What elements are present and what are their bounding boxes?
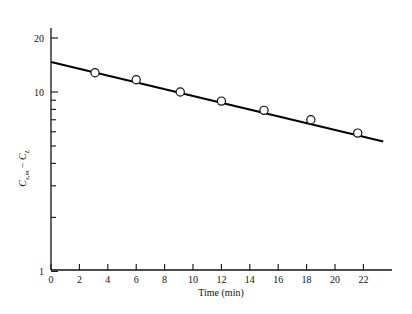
y-tick-label: 10	[34, 87, 44, 98]
data-point	[91, 69, 99, 77]
x-tick-label: 10	[188, 274, 198, 285]
data-point	[176, 88, 184, 96]
x-axis-label: Time (min)	[198, 287, 243, 299]
data-point	[307, 116, 315, 124]
data-point	[132, 76, 140, 84]
chart-background	[0, 0, 412, 314]
x-tick-label: 14	[245, 274, 255, 285]
x-tick-label: 20	[330, 274, 340, 285]
x-tick-label: 6	[134, 274, 139, 285]
x-tick-label: 12	[216, 274, 226, 285]
x-tick-label: 8	[162, 274, 167, 285]
x-tick-label: 0	[49, 274, 54, 285]
x-tick-label: 2	[77, 274, 82, 285]
x-tick-label: 16	[273, 274, 283, 285]
y-tick-label: 1	[39, 266, 44, 277]
x-tick-label: 22	[358, 274, 368, 285]
data-point	[354, 129, 362, 137]
y-tick-label: 20	[34, 33, 44, 44]
x-tick-label: 4	[105, 274, 110, 285]
data-point	[217, 97, 225, 105]
data-point	[260, 106, 268, 114]
chart-figure: 0246810121416182022 11020 Time (min) Cs,…	[0, 0, 412, 314]
x-tick-label: 18	[302, 274, 312, 285]
